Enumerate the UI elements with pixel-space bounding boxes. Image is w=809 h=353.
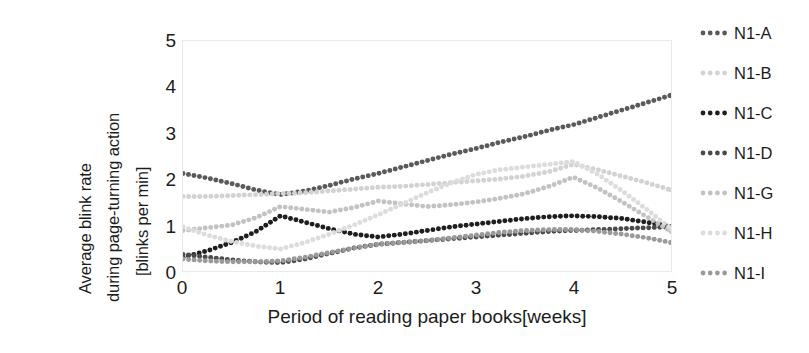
legend-item-n1-g[interactable]: N1-G — [700, 182, 773, 204]
series-canvas — [183, 41, 671, 271]
y-tick-label-0: 0 — [150, 263, 176, 282]
x-tick-label-2: 2 — [373, 278, 384, 297]
x-tick-label-4: 4 — [569, 278, 580, 297]
legend-item-n1-a[interactable]: N1-A — [700, 22, 772, 44]
legend-dotted-line-swatch — [700, 268, 730, 278]
legend-item-n1-h[interactable]: N1-H — [700, 222, 773, 244]
x-axis-title: Period of reading paper books[weeks] — [182, 306, 672, 328]
legend-label: N1-G — [734, 185, 773, 202]
legend-dotted-line-swatch — [700, 68, 730, 78]
legend-item-n1-b[interactable]: N1-B — [700, 62, 772, 84]
legend-dotted-line-swatch — [700, 28, 730, 38]
y-axis-title-line-1: Average blink rate — [76, 163, 95, 294]
legend-label: N1-D — [734, 145, 773, 162]
x-axis-tick-labels: 012345 — [182, 278, 672, 306]
y-tick-label-4: 4 — [150, 77, 176, 96]
x-tick-label-0: 0 — [177, 278, 188, 297]
legend-label: N1-B — [734, 65, 772, 82]
y-axis-tick-labels: 012345 — [148, 0, 176, 353]
x-tick-label-3: 3 — [471, 278, 482, 297]
blink-rate-chart: Average blink rate during page-turning a… — [0, 0, 809, 353]
y-tick-label-1: 1 — [150, 217, 176, 236]
legend-label: N1-A — [734, 25, 772, 42]
y-tick-label-5: 5 — [150, 31, 176, 50]
legend-dotted-line-swatch — [700, 108, 730, 118]
legend-item-n1-i[interactable]: N1-I — [700, 262, 765, 284]
y-tick-label-2: 2 — [150, 170, 176, 189]
y-tick-label-3: 3 — [150, 124, 176, 143]
x-tick-label-5: 5 — [667, 278, 678, 297]
series-n1-a — [183, 93, 671, 197]
plot-area — [182, 40, 672, 272]
series-n1-c — [183, 213, 671, 259]
legend-item-n1-c[interactable]: N1-C — [700, 102, 773, 124]
y-axis-title-line-2: during page-turning action — [104, 113, 123, 302]
legend-label: N1-H — [734, 225, 773, 242]
chart-legend: N1-AN1-BN1-CN1-DN1-GN1-HN1-I — [700, 22, 809, 312]
legend-label: N1-C — [734, 105, 773, 122]
legend-label: N1-I — [734, 265, 765, 282]
legend-dotted-line-swatch — [700, 188, 730, 198]
legend-dotted-line-swatch — [700, 228, 730, 238]
x-tick-label-1: 1 — [275, 278, 286, 297]
legend-item-n1-d[interactable]: N1-D — [700, 142, 773, 164]
y-axis-title: Average blink rate during page-turning a… — [0, 0, 160, 310]
legend-dotted-line-swatch — [700, 148, 730, 158]
